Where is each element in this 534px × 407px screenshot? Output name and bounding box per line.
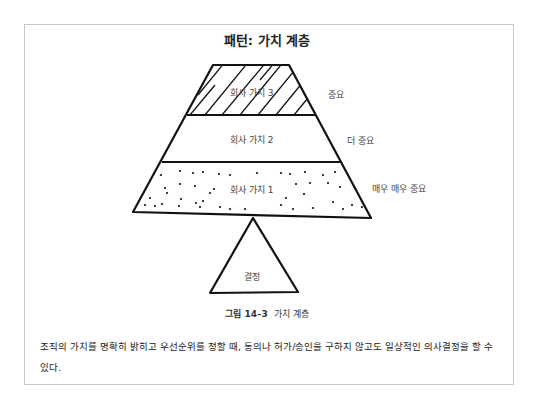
description-text: 조직의 가치를 명확히 밝히고 우선순위를 정할 때, 동의나 허가/승인을 구… — [40, 336, 502, 378]
figure-number: 그림 14–3 — [225, 309, 267, 319]
importance-label-2: 더 중요 — [347, 134, 374, 147]
importance-label-3: 중요 — [328, 88, 344, 101]
layer-2-label: 회사 가치 2 — [230, 133, 273, 146]
decision-label: 결정 — [244, 270, 260, 283]
figure-caption-text: 가치 계층 — [274, 309, 309, 319]
importance-label-1: 매우 매우 중요 — [372, 182, 426, 195]
figure-caption: 그림 14–3가치 계층 — [0, 307, 534, 320]
layer-1-label: 회사 가치 1 — [230, 183, 273, 196]
layer-3-label: 회사 가치 3 — [230, 86, 273, 99]
